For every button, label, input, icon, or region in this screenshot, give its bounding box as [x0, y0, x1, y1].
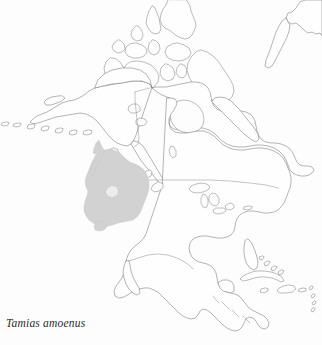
ellef-ringnes-island — [131, 26, 143, 41]
alaska-mainland — [30, 81, 152, 146]
jamaica-island — [260, 288, 268, 293]
aleutian-island-2 — [69, 130, 77, 135]
somerset-island — [176, 64, 187, 78]
aleutian-island-3 — [55, 128, 63, 133]
melville-island — [125, 43, 147, 58]
ellesmere-island — [160, 0, 196, 39]
greenland-southwest-coast — [265, 18, 290, 68]
great-bear-lake — [128, 104, 140, 113]
cuba-island — [240, 271, 284, 282]
lesser-antilles-islands — [309, 286, 316, 312]
devon-island — [165, 43, 191, 61]
aleutian-island-7 — [1, 122, 9, 126]
range-polygon-south-lobe — [94, 221, 107, 231]
puerto-rico-island — [298, 288, 306, 292]
north-america-map — [0, 0, 322, 345]
species-caption: Tamias amoenus — [6, 316, 85, 330]
florida-peninsula — [244, 239, 258, 270]
aleutian-island-5 — [27, 124, 35, 129]
hispaniola-island — [277, 285, 296, 293]
axel-heiberg-island — [146, 6, 161, 34]
aleutian-island-6 — [13, 123, 21, 127]
prince-patrick-island — [112, 40, 125, 53]
bathurst-island — [148, 40, 160, 55]
prince-of-wales-island — [160, 64, 175, 81]
aleutian-island-1 — [83, 130, 92, 135]
figure-container: Tamias amoenus — [0, 0, 322, 345]
greenland-landmass — [286, 0, 322, 36]
aleutian-island-4 — [41, 126, 49, 131]
usa-mexico-mainland — [114, 98, 291, 331]
